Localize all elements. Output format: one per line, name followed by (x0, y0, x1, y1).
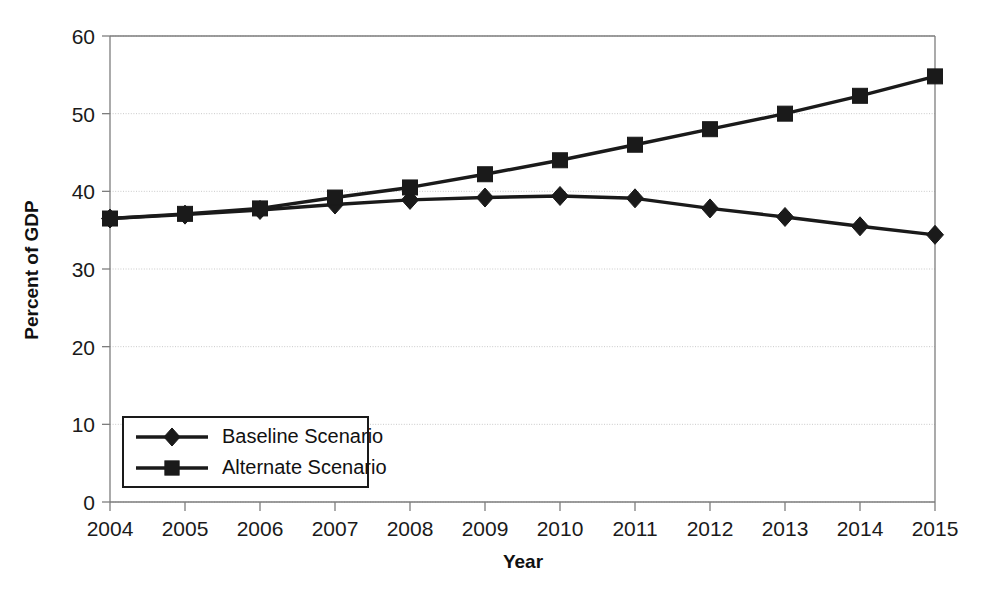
x-tick-labels: 2004200520062007200820092010201120122013… (87, 517, 959, 540)
x-tick-label: 2014 (837, 517, 884, 540)
square-marker-icon (328, 190, 343, 205)
y-tick-label: 20 (72, 336, 95, 359)
y-tick-labels: 0102030405060 (72, 25, 95, 514)
diamond-marker-icon (552, 186, 569, 205)
square-marker-icon (165, 461, 179, 475)
x-axis-title: Year (503, 551, 544, 572)
y-axis-title: Percent of GDP (21, 200, 42, 340)
y-tick-label: 50 (72, 103, 95, 126)
y-tick-label: 60 (72, 25, 95, 48)
chart-legend: Baseline ScenarioAlternate Scenario (123, 417, 387, 487)
x-tick-label: 2007 (312, 517, 359, 540)
y-tick-label: 30 (72, 258, 95, 281)
square-marker-icon (178, 206, 193, 221)
x-tick-label: 2006 (237, 517, 284, 540)
series-line (110, 196, 935, 235)
legend-label: Baseline Scenario (222, 425, 383, 447)
x-tickmarks (110, 502, 935, 511)
series-1 (102, 186, 944, 244)
square-marker-icon (778, 106, 793, 121)
diamond-marker-icon (777, 207, 794, 226)
diamond-marker-icon (927, 225, 944, 244)
x-tick-label: 2004 (87, 517, 134, 540)
y-tick-label: 40 (72, 180, 95, 203)
square-marker-icon (253, 201, 268, 216)
square-marker-icon (928, 69, 943, 84)
series-2 (103, 69, 943, 226)
x-tick-label: 2010 (537, 517, 584, 540)
data-series (102, 69, 944, 244)
square-marker-icon (103, 211, 118, 226)
x-tick-label: 2008 (387, 517, 434, 540)
square-marker-icon (478, 167, 493, 182)
y-tick-label: 0 (83, 491, 95, 514)
x-tick-label: 2011 (612, 517, 657, 540)
y-tick-label: 10 (72, 413, 95, 436)
square-marker-icon (853, 88, 868, 103)
diamond-marker-icon (477, 188, 494, 207)
diamond-marker-icon (702, 199, 719, 218)
legend-label: Alternate Scenario (222, 456, 387, 478)
diamond-marker-icon (852, 217, 869, 236)
chart-container: 0102030405060 20042005200620072008200920… (0, 0, 999, 603)
line-chart: 0102030405060 20042005200620072008200920… (0, 0, 999, 603)
square-marker-icon (553, 153, 568, 168)
x-tick-label: 2009 (462, 517, 509, 540)
x-tick-label: 2015 (912, 517, 959, 540)
x-tick-label: 2005 (162, 517, 209, 540)
square-marker-icon (628, 137, 643, 152)
x-tick-label: 2013 (762, 517, 809, 540)
square-marker-icon (403, 180, 418, 195)
square-marker-icon (703, 122, 718, 137)
x-tick-label: 2012 (687, 517, 734, 540)
